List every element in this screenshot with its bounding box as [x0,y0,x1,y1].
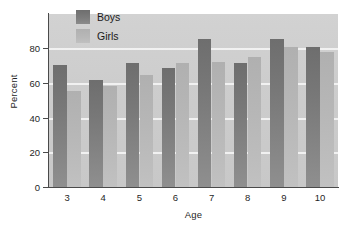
y-tick-mark-80 [43,48,48,49]
bar-girls-age-3 [67,91,81,187]
x-tick-label-10: 10 [302,192,338,203]
bar-girls-age-10 [320,52,334,187]
bar-girls-age-7 [212,62,226,187]
bar-girls-age-4 [103,86,117,187]
bar-boys-age-3 [53,65,67,187]
y-tick-label-20: 20 [10,147,40,158]
y-tick-label-60: 60 [10,78,40,89]
bar-boys-age-4 [89,80,103,187]
bar-boys-age-6 [162,68,176,187]
x-tick-label-7: 7 [194,192,230,203]
bar-group [230,14,266,187]
x-tick-label-4: 4 [85,192,121,203]
chart-legend: Boys Girls [76,10,120,43]
y-tick-label-40: 40 [10,113,40,124]
y-tick-label-0: 0 [10,182,40,193]
legend-swatch-boys-icon [76,10,90,24]
y-tick-mark-0 [43,187,48,188]
bar-boys-age-5 [126,63,140,187]
y-tick-mark-40 [43,118,48,119]
x-tick-label-3: 3 [49,192,85,203]
bar-boys-age-7 [198,39,212,187]
x-tick-label-5: 5 [121,192,157,203]
bar-girls-age-8 [248,57,262,187]
bar-group [302,14,338,187]
x-axis-line [48,187,339,188]
legend-label-boys: Boys [97,10,120,24]
x-axis-title: Age [49,209,338,220]
bar-group [266,14,302,187]
x-tick-label-6: 6 [157,192,193,203]
bar-boys-age-10 [306,47,320,187]
bar-boys-age-9 [270,39,284,187]
y-tick-label-80: 80 [10,43,40,54]
legend-entry-girls: Girls [76,29,120,43]
bar-group [194,14,230,187]
bar-girls-age-9 [284,47,298,187]
y-tick-mark-20 [43,152,48,153]
legend-swatch-girls-icon [76,29,90,43]
bar-group [157,14,193,187]
bar-girls-age-5 [140,75,154,187]
legend-entry-boys: Boys [76,10,120,24]
y-tick-mark-60 [43,83,48,84]
bar-chart-figure: Percent 0 20 40 60 80 345678910 Age Boys… [0,0,352,233]
bar-group [121,14,157,187]
legend-label-girls: Girls [97,29,119,43]
bar-boys-age-8 [234,63,248,187]
x-tick-label-9: 9 [266,192,302,203]
x-tick-label-8: 8 [230,192,266,203]
bar-girls-age-6 [176,63,190,187]
